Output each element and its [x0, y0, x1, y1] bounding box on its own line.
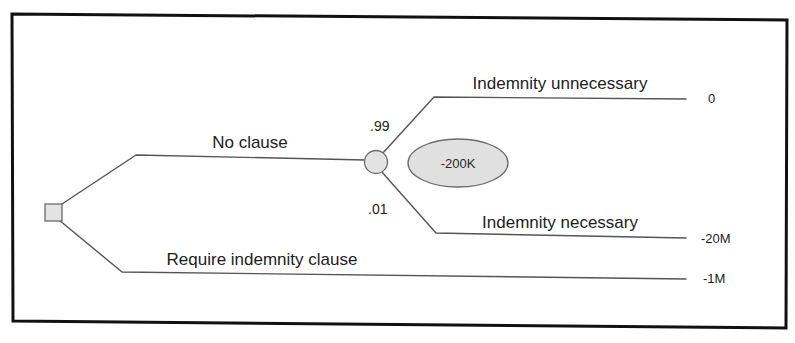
branch-label-indemnity-unnecessary: Indemnity unnecessary: [473, 74, 648, 93]
probability-label-indemnity-unnecessary: .99: [370, 118, 390, 134]
chance-node[interactable]: [365, 151, 388, 174]
edge-no-clause: [59, 155, 366, 206]
branch-label-indemnity-necessary: Indemnity necessary: [482, 213, 638, 232]
expected-value-label: -200K: [441, 156, 476, 171]
payoff-label-indemnity-necessary: -20M: [701, 231, 731, 246]
branch-label-require-indemnity-clause: Require indemnity clause: [167, 250, 358, 269]
payoff-label-indemnity-unnecessary: 0: [708, 91, 715, 106]
payoff-label-require-indemnity-clause: -1M: [703, 271, 725, 286]
probability-label-indemnity-necessary: .01: [368, 201, 388, 217]
decision-tree-canvas: -200K No clause Require indemnity clause…: [0, 0, 795, 343]
decision-tree-figure: -200K No clause Require indemnity clause…: [0, 0, 795, 343]
decision-node[interactable]: [45, 204, 62, 221]
branch-label-no-clause: No clause: [212, 133, 288, 152]
figure-border: [12, 14, 787, 328]
